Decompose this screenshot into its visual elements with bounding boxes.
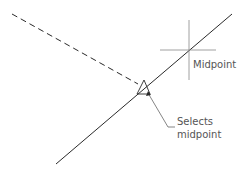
leader-arrow xyxy=(146,91,175,127)
midpoint-label: Midpoint xyxy=(193,59,236,70)
selects-label-line2: midpoint xyxy=(177,129,221,140)
midpoint-diagram: Midpoint Selects midpoint xyxy=(0,0,246,172)
crosshair-icon xyxy=(160,20,216,80)
dashed-construction-line xyxy=(12,14,138,84)
solid-line xyxy=(56,14,232,164)
selects-label-line1: Selects xyxy=(177,116,213,127)
